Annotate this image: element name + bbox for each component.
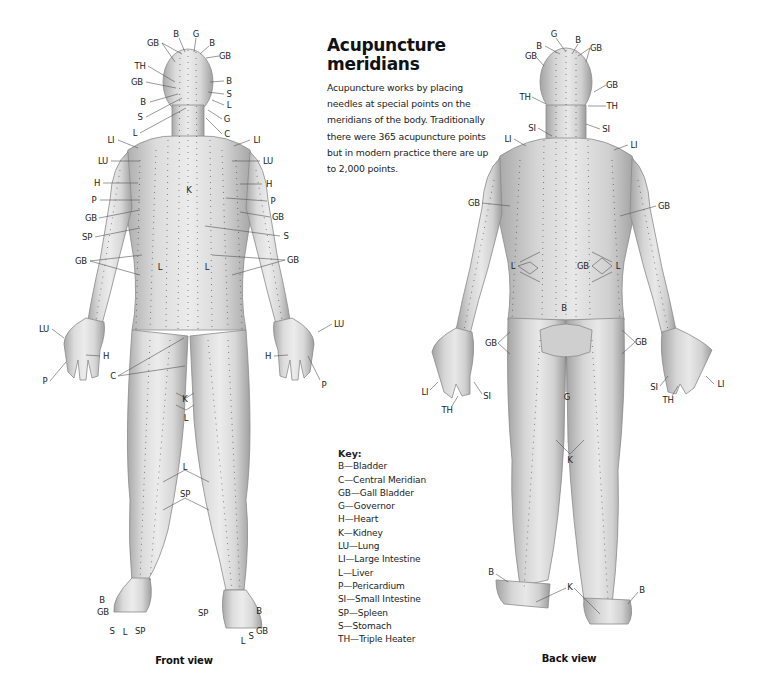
meridian-label: L [511, 261, 516, 271]
meridian-label: GB [525, 51, 537, 61]
key-item-lung: LU—Lung [338, 540, 426, 553]
key-item-stomach: S—Stomach [338, 620, 426, 633]
meridian-label: B [536, 41, 542, 51]
meridian-label: TH [606, 101, 617, 111]
meridian-label: SI [483, 391, 491, 401]
meridian-label: LI [505, 134, 512, 144]
front-figure [64, 49, 314, 628]
legend-key: Key: B—Bladder C—Central Meridian GB—Gal… [338, 447, 426, 646]
meridian-label: SI [650, 382, 658, 392]
meridian-label: L [227, 100, 232, 110]
meridian-label: L [183, 462, 188, 472]
meridian-label: S [137, 112, 142, 122]
meridian-label: K [182, 394, 187, 404]
meridian-label: P [43, 376, 48, 386]
meridian-label: SP [82, 232, 92, 242]
back-view-caption: Back view [542, 653, 597, 664]
meridian-label: K [567, 582, 572, 592]
meridian-label: H [94, 178, 100, 188]
meridian-label: LI [718, 379, 725, 389]
meridian-label: B [488, 567, 494, 577]
key-item-gall-bladder: GB—Gall Bladder [338, 487, 426, 500]
meridian-label: S [109, 626, 114, 636]
front-view-caption: Front view [155, 655, 212, 666]
key-item-bladder: B—Bladder [338, 460, 426, 473]
key-item-spleen: SP—Spleen [338, 607, 426, 620]
key-item-liver: L—Liver [338, 567, 426, 580]
meridian-label: SP [180, 489, 190, 499]
meridian-label: P [322, 380, 327, 390]
meridian-label: B [256, 606, 262, 616]
meridian-label: GB [85, 213, 97, 223]
meridian-label: L [616, 261, 621, 271]
meridian-label: SI [602, 124, 610, 134]
meridian-label: K [567, 455, 572, 465]
meridian-label: LI [254, 135, 261, 145]
meridian-label: GB [658, 201, 670, 211]
meridian-label: TH [662, 395, 673, 405]
meridian-label: GB [606, 80, 618, 90]
meridian-label: L [241, 636, 246, 646]
meridian-label: P [271, 196, 276, 206]
meridian-label: B [226, 76, 232, 86]
meridian-label: GB [635, 337, 647, 347]
meridian-label: GB [75, 256, 87, 266]
meridian-label: B [209, 38, 215, 48]
meridian-label: S [248, 631, 253, 641]
meridian-label: P [92, 195, 97, 205]
meridian-label: C [110, 371, 116, 381]
meridian-label: L [133, 128, 138, 138]
meridian-label: H [265, 351, 271, 361]
meridian-label: L [184, 413, 189, 423]
key-item-central-meridian: C—Central Meridian [338, 474, 426, 487]
intro-text: Acupuncture works by placing needles at … [327, 80, 497, 177]
meridian-label: GB [590, 43, 602, 53]
meridian-label: B [173, 29, 179, 39]
meridian-label: G [564, 392, 570, 402]
meridian-label: SP [198, 608, 208, 618]
meridian-label: H [266, 179, 272, 189]
meridian-label: TH [519, 92, 530, 102]
meridian-label: GB [468, 198, 480, 208]
meridian-label: S [226, 89, 231, 99]
meridian-label: GB [219, 51, 231, 61]
meridian-label: B [99, 595, 105, 605]
key-item-small-intestine: SI—Small Intestine [338, 593, 426, 606]
page-title: Acupuncture meridians [327, 36, 497, 74]
meridian-label: LU [39, 324, 49, 334]
key-item-triple-heater: TH—Triple Heater [338, 633, 426, 646]
meridian-label: LU [263, 156, 273, 166]
meridian-label: SP [135, 626, 145, 636]
meridian-label: GB [97, 607, 109, 617]
meridian-label: L [158, 262, 163, 272]
meridian-label: TH [134, 61, 145, 71]
meridian-label: LI [422, 387, 429, 397]
meridian-label: C [224, 129, 230, 139]
key-item-governor: G—Governor [338, 500, 426, 513]
meridian-label: GB [272, 212, 284, 222]
meridian-label: GB [131, 77, 143, 87]
meridian-label: B [140, 97, 146, 107]
meridian-label: G [193, 29, 199, 39]
meridian-label: K [186, 185, 191, 195]
key-item-kidney: K—Kidney [338, 527, 426, 540]
key-item-large-intestine: LI—Large Intestine [338, 553, 426, 566]
meridian-label: H [103, 351, 109, 361]
meridian-label: LU [334, 319, 344, 329]
meridian-label: LI [108, 135, 115, 145]
meridian-label: B [561, 303, 567, 313]
key-item-pericardium: P—Pericardium [338, 580, 426, 593]
meridian-label: GB [147, 38, 159, 48]
meridian-label: L [123, 627, 128, 637]
meridian-label: GB [256, 626, 268, 636]
key-title: Key: [338, 447, 426, 460]
key-item-heart: H—Heart [338, 513, 426, 526]
meridian-label: LI [631, 140, 638, 150]
acupuncture-diagram: Acupuncture meridians Acupuncture works … [0, 0, 765, 697]
meridian-label: G [551, 29, 557, 39]
meridian-label: L [205, 262, 210, 272]
meridian-label: GB [287, 255, 299, 265]
meridian-label: GB [485, 338, 497, 348]
meridian-label: B [575, 35, 581, 45]
meridian-label: TH [441, 405, 452, 415]
